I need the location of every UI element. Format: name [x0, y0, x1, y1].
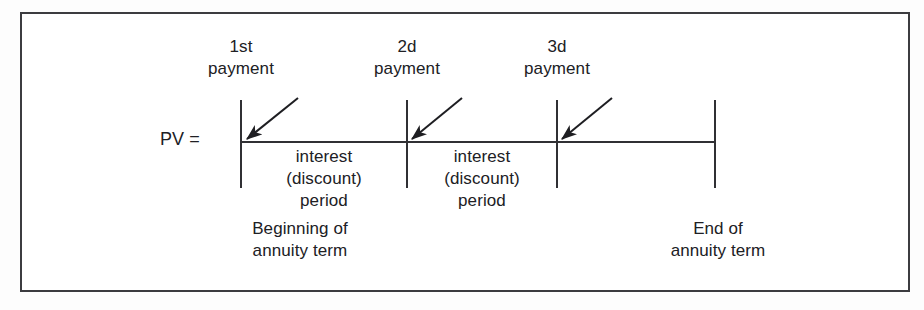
annuity-term-start-label: Beginning of annuity term — [252, 218, 348, 262]
payment-label-1: 1st payment — [208, 36, 274, 80]
payment-label-3-line2: payment — [524, 58, 590, 80]
annuity-term-start-line2: annuity term — [252, 240, 348, 262]
pv-equation-label: PV = — [160, 128, 200, 150]
payment-label-3-line1: 3d — [524, 36, 590, 58]
payment-label-1-line1: 1st — [208, 36, 274, 58]
interest-period-label-2-line3: period — [444, 190, 520, 212]
annuity-term-end-label: End of annuity term — [671, 218, 766, 262]
interest-period-label-2-line1: interest — [444, 146, 520, 168]
interest-period-label-2: interest (discount) period — [444, 146, 520, 212]
payment-label-2-line2: payment — [374, 58, 440, 80]
interest-period-label-1-line1: interest — [286, 146, 362, 168]
pv-equation-text: PV = — [160, 128, 200, 150]
annuity-term-start-line1: Beginning of — [252, 218, 348, 240]
interest-period-label-1: interest (discount) period — [286, 146, 362, 212]
payment-label-2-line1: 2d — [374, 36, 440, 58]
annuity-term-end-line2: annuity term — [671, 240, 766, 262]
interest-period-label-1-line2: (discount) — [286, 168, 362, 190]
payment-label-1-line2: payment — [208, 58, 274, 80]
interest-period-label-1-line3: period — [286, 190, 362, 212]
interest-period-label-2-line2: (discount) — [444, 168, 520, 190]
annuity-term-end-line1: End of — [671, 218, 766, 240]
annuity-timeline-figure: PV = 1st payment 2d payment 3d payment i… — [0, 0, 924, 310]
payment-label-3: 3d payment — [524, 36, 590, 80]
payment-label-2: 2d payment — [374, 36, 440, 80]
